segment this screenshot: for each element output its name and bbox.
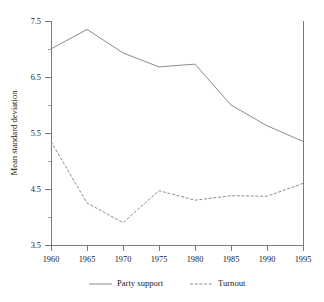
y-tick-label-3-5: 3.5 bbox=[31, 241, 41, 250]
x-tick-label-1970: 1970 bbox=[115, 255, 132, 264]
x-tick-label-1965: 1965 bbox=[79, 255, 96, 264]
chart-legend: Party support Turnout bbox=[89, 278, 246, 288]
x-tick-label-1960: 1960 bbox=[43, 255, 60, 264]
y-tick-label-6-5: 6.5 bbox=[31, 73, 41, 82]
series-line-turnout bbox=[51, 141, 303, 222]
y-tick-label-4-5: 4.5 bbox=[31, 185, 41, 194]
x-tick-label-1990: 1990 bbox=[259, 255, 276, 264]
x-tick-label-1975: 1975 bbox=[151, 255, 168, 264]
legend-label-turnout: Turnout bbox=[218, 278, 246, 288]
x-tick-label-1980: 1980 bbox=[187, 255, 204, 264]
y-tick-label-5-5: 5.5 bbox=[31, 129, 41, 138]
x-tick-label-1985: 1985 bbox=[223, 255, 240, 264]
y-tick-label-7-5: 7.5 bbox=[31, 17, 41, 26]
series-line-party-support bbox=[51, 29, 303, 141]
y-axis-title: Mean standard deviation bbox=[9, 90, 19, 176]
line-chart: Mean standard deviation 7.5 6.5 5.5 4.5 … bbox=[0, 0, 324, 302]
x-tick-label-1995: 1995 bbox=[295, 255, 312, 264]
chart-figure: Mean standard deviation 7.5 6.5 5.5 4.5 … bbox=[0, 0, 324, 302]
legend-label-party-support: Party support bbox=[117, 278, 164, 288]
